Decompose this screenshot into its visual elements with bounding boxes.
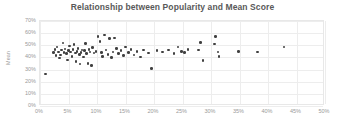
y-axis-tick-label: 70% [25,17,36,23]
data-point [120,49,123,52]
data-point [283,46,286,49]
data-point [84,42,87,45]
y-axis-tick-label: 50% [25,41,36,47]
x-axis-tick-label: 45% [290,108,301,114]
data-point [150,67,153,70]
data-point [100,51,103,54]
data-point [136,50,139,53]
gridline-vertical [240,21,241,104]
data-point [65,52,68,55]
data-point [218,55,221,58]
data-point [156,49,159,52]
data-point [183,51,186,54]
x-axis-tick-label: 20% [147,108,158,114]
x-axis-tick-label: 15% [119,108,130,114]
data-point [90,64,93,67]
data-point [101,55,104,58]
data-point [108,37,111,40]
data-point [142,49,145,52]
data-point [64,48,67,51]
data-point [79,63,82,66]
data-point [99,40,102,43]
data-point [91,46,94,49]
gridline-vertical [325,21,326,104]
y-axis-tick-label: 30% [25,66,36,72]
data-point [62,42,65,45]
data-point [55,54,58,57]
y-axis-tick-label: 40% [25,53,36,59]
data-point [80,51,83,54]
data-point [133,54,136,57]
data-point [122,54,125,57]
x-axis-tick-label: 10% [90,108,101,114]
data-point [85,52,88,55]
y-axis-tick-label: 20% [25,78,36,84]
gridline-vertical [69,21,70,104]
x-axis-tick-label: 0% [35,108,43,114]
chart-title: Relationship between Popularity and Mean… [0,2,345,12]
data-point [187,48,190,51]
data-point [117,52,120,55]
data-point [112,51,115,54]
gridline-vertical [97,21,98,104]
data-point [256,51,259,54]
gridline-horizontal [40,33,323,34]
gridline-vertical [183,21,184,104]
data-point [59,54,62,57]
data-point [44,73,47,76]
x-axis-tick-label: 5% [64,108,72,114]
x-axis-tick-label: 35% [233,108,244,114]
data-point [69,51,72,54]
data-point [68,45,71,48]
data-point [95,50,98,53]
gridline-vertical [297,21,298,104]
y-axis-label: Mean [5,41,11,75]
data-point [57,51,60,54]
y-axis-tick-label: 60% [25,29,36,35]
data-point [75,60,78,63]
data-point [115,47,118,50]
data-point [71,55,74,58]
data-point [130,48,133,51]
data-point [113,37,116,40]
data-point [58,57,61,60]
plot-area [39,20,324,105]
data-point [197,49,200,52]
data-point [202,59,205,62]
data-point [217,51,220,54]
gridline-horizontal [40,21,323,22]
y-axis-tick-label: 10% [25,90,36,96]
data-point [139,56,142,59]
data-point [77,47,80,50]
gridline-horizontal [40,94,323,95]
data-point [89,51,92,54]
data-point [66,59,69,62]
data-point [147,52,150,55]
data-point [199,41,202,44]
data-point [105,49,108,52]
data-point [110,56,113,59]
gridline-vertical [268,21,269,104]
gridline-horizontal [40,45,323,46]
x-axis-tick-label: 40% [261,108,272,114]
data-point [127,51,130,54]
data-point [180,50,183,53]
data-point [54,48,57,51]
x-axis-tick-label: 25% [176,108,187,114]
data-point [214,35,217,38]
data-point [107,53,110,56]
plot-wrapper: 0%10%20%30%40%50%60%70% 0%5%10%15%20%25%… [39,20,324,105]
data-point [167,49,170,52]
gridline-horizontal [40,70,323,71]
data-point [173,52,176,55]
data-point [82,56,85,59]
gridline-vertical [126,21,127,104]
data-point [87,62,90,65]
data-point [103,34,106,37]
gridline-horizontal [40,82,323,83]
gridline-vertical [154,21,155,104]
gridline-vertical [211,21,212,104]
data-point [177,46,180,49]
data-point [72,48,75,51]
gridline-vertical [40,21,41,104]
